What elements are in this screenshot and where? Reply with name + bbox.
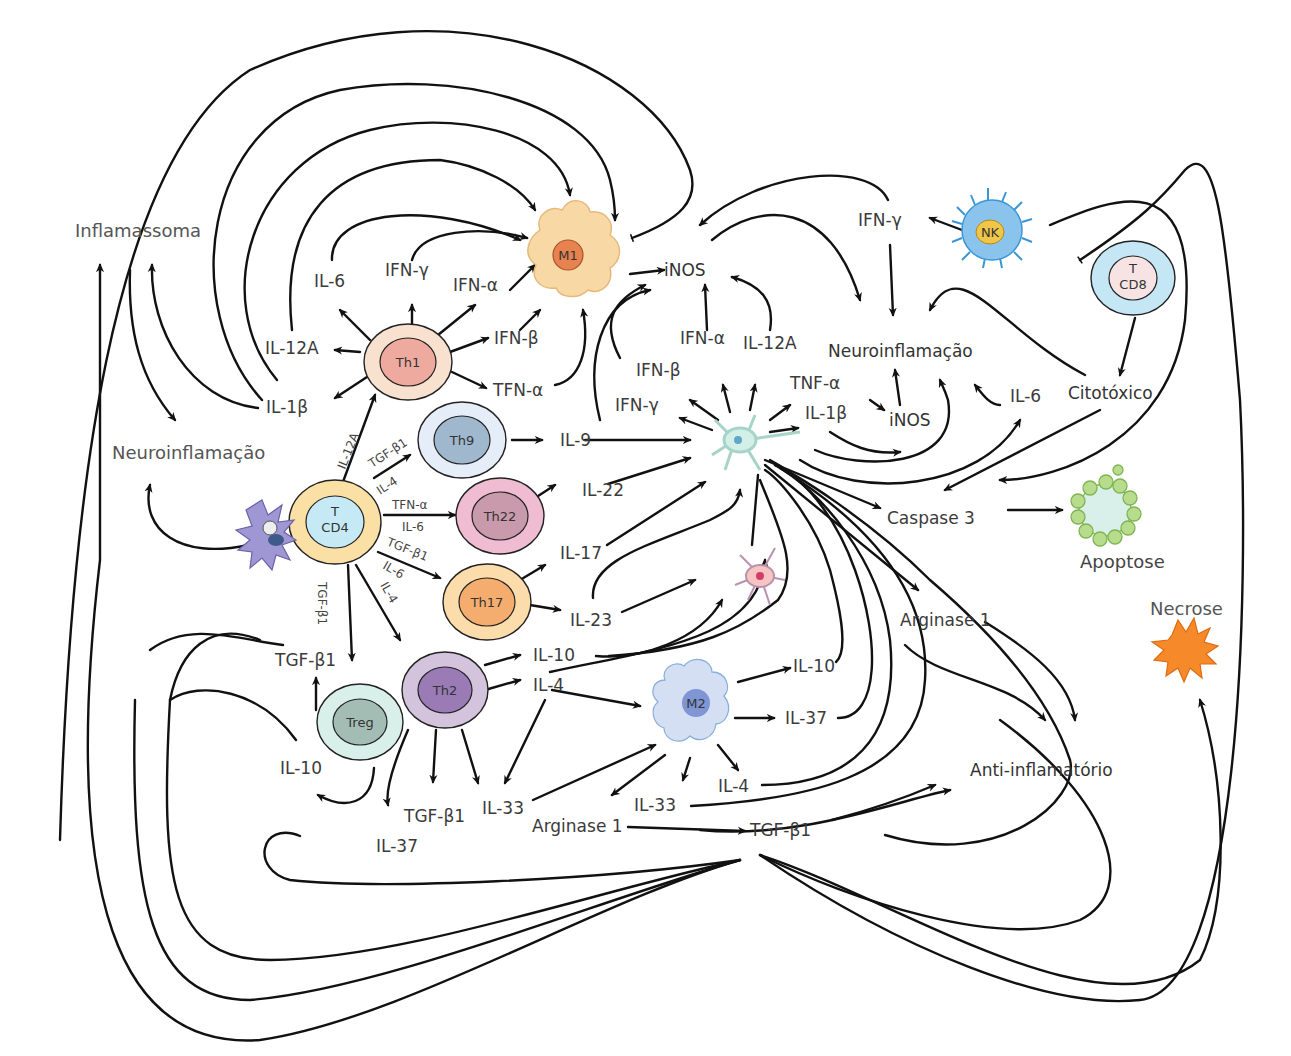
- label-arginase1-bottom: Arginase 1: [532, 818, 623, 835]
- apoptotic-cell: [1071, 465, 1141, 546]
- label-tgfb1-bottom: TGF-β1: [750, 822, 811, 839]
- m1-label: M1: [558, 248, 578, 263]
- edge-label-cd4-th22-b: IL-6: [402, 520, 424, 534]
- th22-cell: Th22: [456, 478, 544, 554]
- label-tgfb1-th2: TGF-β1: [404, 808, 465, 825]
- tcd4-label-1: T: [330, 504, 339, 519]
- treg-label: Treg: [345, 715, 373, 730]
- label-inos-right: iNOS: [889, 412, 931, 429]
- m1-macrophage: M1: [528, 201, 620, 297]
- m2-label: M2: [686, 696, 706, 711]
- label-ifng-neuron: IFN-γ: [615, 397, 659, 414]
- edge-label-cd4-th22-a: TFN-α: [391, 498, 428, 512]
- label-ifna-neuron: IFN-α: [680, 330, 725, 347]
- tcd4-cell: T CD4: [289, 480, 381, 564]
- label-il6-th1: IL-6: [314, 273, 345, 290]
- th17-cell: Th17: [443, 564, 531, 640]
- tcd4-label-2: CD4: [321, 520, 348, 535]
- label-neuroinflamacao-left: Neuroinflamação: [112, 444, 265, 462]
- tcd8-label-2: CD8: [1119, 277, 1146, 292]
- label-tfna-th1: TFN-α: [493, 382, 543, 399]
- label-il4-m2: IL-4: [718, 778, 749, 795]
- label-il12a-neuron: IL-12A: [743, 335, 797, 352]
- label-inflamassoma: Inflamassoma: [75, 222, 201, 240]
- astrocyte-cell: [735, 548, 785, 605]
- label-ifna-th1: IFN-α: [453, 277, 498, 294]
- label-arginase1-right: Arginase 1: [900, 612, 991, 629]
- tcd8-cell: T CD8: [1091, 241, 1175, 315]
- necrotic-cell: [1152, 618, 1218, 682]
- immune-neuroinflammation-diagram: M1 Th1 Th9 Th22 Th17 T CD4: [0, 0, 1291, 1056]
- edge-bottom-left-2: [134, 700, 740, 1000]
- label-il22: IL-22: [582, 482, 624, 499]
- label-il9: IL-9: [560, 432, 591, 449]
- label-il6-right: IL-6: [1010, 388, 1041, 405]
- dendritic-cell: [236, 500, 296, 570]
- label-il10-th2: IL-10: [533, 647, 575, 664]
- label-il33-m2: IL-33: [634, 797, 676, 814]
- nk-label: NK: [981, 225, 1000, 240]
- label-apoptose: Apoptose: [1080, 553, 1165, 571]
- label-il1b-left: IL-1β: [266, 399, 308, 416]
- th2-cell: Th2: [402, 652, 488, 728]
- label-il12a-th1: IL-12A: [265, 340, 319, 357]
- edge-label-cd4-treg: TGF-β1: [315, 581, 329, 625]
- label-il1b-neuron: IL-1β: [805, 405, 847, 422]
- edge-label-cd4-th9-a: TGF-β1: [365, 435, 410, 471]
- edge-label-cd4-th1: IL-12A: [335, 430, 362, 471]
- th2-label: Th2: [432, 683, 457, 698]
- label-ifnb-th1: IFN-β: [494, 330, 539, 347]
- m2-macrophage: M2: [653, 659, 729, 741]
- edge-il1b-inflamassoma: [152, 265, 258, 408]
- nk-cell: NK: [952, 188, 1032, 268]
- edge-bottom-right-2: [760, 700, 1221, 984]
- neuron-cell: [712, 415, 800, 470]
- edge-label-cd4-th9-b: IL-4: [374, 474, 400, 498]
- label-il10-treg: IL-10: [280, 760, 322, 777]
- th1-label: Th1: [395, 355, 420, 370]
- label-ifnb-neuron: IFN-β: [636, 362, 681, 379]
- label-tgfb1-treg: TGF-β1: [275, 652, 336, 669]
- label-ifng-nk: IFN-γ: [858, 212, 902, 229]
- tcd8-label-1: T: [1128, 261, 1137, 276]
- label-il17: IL-17: [560, 545, 602, 562]
- edge-dc-neuro: [148, 485, 248, 549]
- label-il37-m2: IL-37: [785, 710, 827, 727]
- label-ifng-th1: IFN-γ: [385, 262, 429, 279]
- th1-cell: Th1: [364, 324, 452, 400]
- edges: [60, 31, 1243, 1040]
- th9-cell: Th9: [418, 402, 506, 478]
- th22-label: Th22: [483, 509, 517, 524]
- th17-label: Th17: [470, 595, 504, 610]
- label-il4-th2: IL-4: [533, 677, 564, 694]
- label-anti-inflamatorio: Anti-inflamatório: [970, 762, 1113, 779]
- label-il10-m2: IL-10: [793, 658, 835, 675]
- label-citotoxico: Citotóxico: [1068, 385, 1153, 402]
- label-il37-bottom: IL-37: [376, 838, 418, 855]
- edge-label-cd4-th2: IL-4: [377, 580, 400, 606]
- th9-label: Th9: [449, 433, 474, 448]
- label-inos-top: iNOS: [664, 262, 706, 279]
- label-tnfa-neuron: TNF-α: [790, 375, 840, 392]
- label-neuroinflamacao-right: Neuroinflamação: [828, 343, 973, 360]
- label-il23: IL-23: [570, 612, 612, 629]
- label-necrose: Necrose: [1150, 600, 1223, 618]
- treg-cell: Treg: [317, 684, 403, 760]
- label-caspase3: Caspase 3: [887, 510, 975, 527]
- label-il33-th2: IL-33: [482, 800, 524, 817]
